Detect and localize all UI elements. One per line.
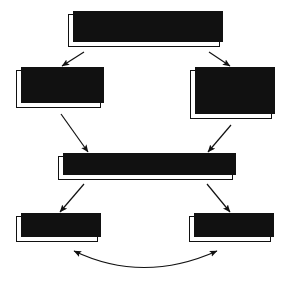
edge-growing-awareness-to-reading	[60, 184, 84, 212]
edge-phonological-to-early-spelling	[209, 52, 230, 66]
edge-growing-awareness-to-spelling	[207, 184, 230, 212]
node-reading[interactable]: Reading	[16, 216, 98, 242]
edge-phonological-to-early-reading	[62, 52, 84, 66]
node-spelling[interactable]: Spelling	[189, 216, 271, 242]
node-label: Growing awareness of phonemes	[68, 162, 223, 174]
edge-early-spelling-to-growing-awareness	[208, 125, 231, 152]
node-label: Reading	[35, 223, 80, 235]
edge-early-reading-to-growing-awareness	[61, 114, 88, 152]
flowchart-diagram: Early phonological experiences (onsets a…	[0, 0, 287, 287]
node-growing-awareness-of-phonemes[interactable]: Growing awareness of phonemes	[58, 156, 233, 180]
node-label: Early spelling (attention to phonemes)	[197, 77, 264, 112]
node-early-reading[interactable]: Early reading (analogies)	[16, 70, 101, 108]
node-label: Early phonological experiences (onsets a…	[71, 19, 217, 42]
edge-reading-spelling-bidirectional	[74, 251, 217, 268]
node-early-spelling[interactable]: Early spelling (attention to phonemes)	[190, 70, 272, 119]
node-label: Spelling	[208, 223, 251, 235]
node-label: Early reading (analogies)	[25, 78, 92, 101]
node-early-phonological-experiences[interactable]: Early phonological experiences (onsets a…	[68, 14, 220, 47]
